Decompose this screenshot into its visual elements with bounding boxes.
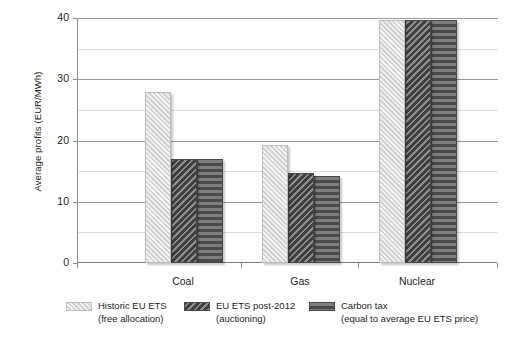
x-tick-mark bbox=[358, 263, 359, 268]
x-tick-mark bbox=[497, 263, 498, 268]
y-tick-mark bbox=[73, 141, 78, 142]
y-tick-label: 0 bbox=[25, 256, 69, 268]
bar bbox=[431, 20, 457, 263]
bar bbox=[197, 159, 223, 263]
hatch-dark-swatch bbox=[184, 302, 210, 311]
stripe-dark-swatch bbox=[309, 302, 335, 311]
legend-label-line2: (auctioning) bbox=[216, 313, 295, 326]
legend-label-line2: (equal to average EU ETS price) bbox=[341, 313, 478, 326]
plot-area bbox=[77, 18, 497, 263]
x-category-label-nuclear: Nuclear bbox=[372, 275, 462, 287]
legend-item: Historic EU ETS(free allocation) bbox=[66, 300, 184, 325]
x-category-label-coal: Coal bbox=[138, 275, 228, 287]
x-tick-mark bbox=[77, 263, 78, 268]
bar bbox=[379, 20, 405, 263]
y-tick-mark bbox=[73, 202, 78, 203]
y-tick-label: 30 bbox=[25, 72, 69, 84]
y-tick-label: 20 bbox=[25, 134, 69, 146]
bar-group-nuclear bbox=[379, 18, 457, 263]
bar bbox=[145, 92, 171, 264]
bar-groups bbox=[78, 18, 498, 263]
x-tick-mark bbox=[241, 263, 242, 268]
y-tick-mark bbox=[73, 79, 78, 80]
legend: Historic EU ETS(free allocation)EU ETS p… bbox=[66, 300, 496, 325]
bar bbox=[171, 159, 197, 263]
y-tick-label: 40 bbox=[25, 11, 69, 23]
y-tick-mark bbox=[73, 18, 78, 19]
legend-label-line2: (free allocation) bbox=[98, 313, 167, 326]
legend-item: Carbon tax(equal to average EU ETS price… bbox=[309, 300, 478, 325]
bar-group-gas bbox=[262, 18, 340, 263]
bar bbox=[288, 173, 314, 263]
bar-group-coal bbox=[145, 18, 223, 263]
legend-label: Historic EU ETS(free allocation) bbox=[98, 300, 167, 325]
legend-label-line1: Historic EU ETS bbox=[98, 300, 167, 311]
y-tick-label: 10 bbox=[25, 195, 69, 207]
legend-label: EU ETS post-2012(auctioning) bbox=[216, 300, 295, 325]
hatch-light-swatch bbox=[66, 302, 92, 311]
legend-item: EU ETS post-2012(auctioning) bbox=[184, 300, 309, 325]
legend-label: Carbon tax(equal to average EU ETS price… bbox=[341, 300, 478, 325]
legend-label-line1: Carbon tax bbox=[341, 300, 387, 311]
x-category-label-gas: Gas bbox=[255, 275, 345, 287]
legend-label-line1: EU ETS post-2012 bbox=[216, 300, 295, 311]
bar bbox=[314, 176, 340, 263]
bar bbox=[405, 20, 431, 263]
bar bbox=[262, 145, 288, 263]
bar-chart-figure: Average profits (EUR/MWh) 010203040 Coal… bbox=[0, 0, 507, 339]
